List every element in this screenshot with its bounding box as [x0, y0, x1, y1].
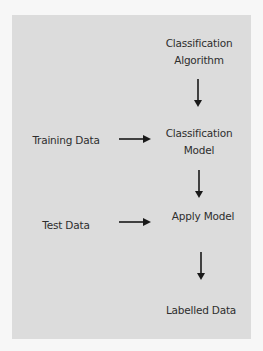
- node-classification-model-line1: Classification: [150, 125, 248, 142]
- arrow-right-icon: [119, 134, 153, 144]
- node-apply-model: Apply Model: [158, 208, 248, 225]
- node-labelled-data: Labelled Data: [156, 302, 246, 319]
- arrow-down-icon: [194, 170, 204, 200]
- node-classification-algorithm: Classification Algorithm: [150, 35, 248, 69]
- node-classification-model-line2: Model: [150, 142, 248, 159]
- arrow-right-icon: [119, 217, 153, 227]
- node-test-data: Test Data: [30, 217, 102, 234]
- arrow-down-icon: [193, 79, 203, 109]
- node-training-data: Training Data: [26, 132, 106, 149]
- node-classification-algorithm-line2: Algorithm: [150, 52, 248, 69]
- node-classification-algorithm-line1: Classification: [150, 35, 248, 52]
- node-classification-model: Classification Model: [150, 125, 248, 159]
- arrow-down-icon: [196, 252, 206, 282]
